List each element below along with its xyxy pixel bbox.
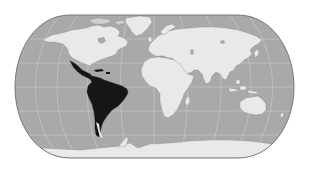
world-map	[0, 0, 312, 172]
